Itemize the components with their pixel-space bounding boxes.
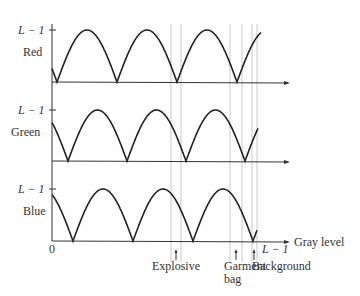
x-axis-label: Gray level [294,235,345,249]
max-label: L − 1 [17,182,45,196]
channel-green: L − 1Green [11,103,290,164]
intensity-transform-diagram: L − 1RedL − 1GreenL − 1Blue 0 L − 1 Gray… [0,0,360,296]
guide-lines [171,24,257,262]
baseline-axis [52,161,288,162]
marker-label-bag: bag [224,272,241,286]
channel-label: Green [11,125,40,139]
marker-explosive: Explosive [152,249,200,273]
channel-red: L − 1Red [17,23,290,85]
transfer-curve [52,110,258,161]
baseline-axis [52,82,288,83]
origin-label: 0 [49,242,55,256]
marker-label-explosive: Explosive [152,259,200,273]
axis-arrow-icon [284,160,290,164]
channels: L − 1RedL − 1GreenL − 1Blue [11,23,290,244]
channel-label: Blue [23,204,46,218]
marker-label-background: Background [252,259,311,273]
channel-label: Red [23,45,42,59]
channel-blue: L − 1Blue [17,182,290,244]
transfer-curve [52,189,257,241]
max-label: L − 1 [17,23,45,37]
x-max-label: L − 1 [261,242,289,256]
max-label: L − 1 [17,103,45,117]
axis-arrow-icon [284,81,290,85]
